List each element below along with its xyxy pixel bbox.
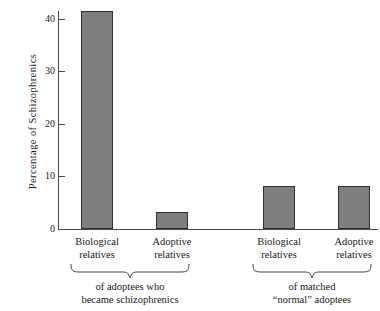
y-tick-label-0: 0	[25, 224, 55, 234]
bar-label-line1: Biological	[54, 236, 140, 249]
group-caption-line1: of matched	[222, 281, 380, 294]
y-tick-label-30: 30	[25, 66, 55, 76]
bar-label-group2-adoptive: Adoptive relatives	[311, 236, 380, 261]
group-caption-line1: of adoptees who	[40, 281, 220, 294]
bar-label-line2: relatives	[236, 249, 322, 262]
y-tick-mark-30	[59, 71, 65, 72]
bar-group2-biological-relatives	[263, 186, 295, 229]
group-caption-right: of matched “normal” adoptees	[222, 281, 380, 306]
group-caption-line2: “normal” adoptees	[222, 294, 380, 307]
x-axis-line	[58, 229, 378, 230]
bar-label-group1-adoptive: Adoptive relatives	[129, 236, 215, 261]
y-tick-mark-40	[59, 19, 65, 20]
bar-group1-biological-relatives	[81, 11, 113, 229]
bar-label-line1: Adoptive	[311, 236, 380, 249]
bar-group1-adoptive-relatives	[156, 212, 188, 229]
bar-label-line1: Biological	[236, 236, 322, 249]
y-tick-mark-0	[59, 229, 65, 230]
group-caption-left: of adoptees who became schizophrenics	[40, 281, 220, 306]
y-tick-label-40: 40	[25, 14, 55, 24]
bar-label-group1-biological: Biological relatives	[54, 236, 140, 261]
bar-label-group2-biological: Biological relatives	[236, 236, 322, 261]
group-brace-right-icon	[252, 263, 372, 279]
y-tick-mark-20	[59, 124, 65, 125]
bar-group2-adoptive-relatives	[338, 186, 370, 229]
bar-chart: Percentage of Schizophrenics 40 30 20 10…	[0, 0, 380, 311]
group-brace-left-icon	[70, 263, 190, 279]
bar-label-line2: relatives	[311, 249, 380, 262]
group-caption-line2: became schizophrenics	[40, 294, 220, 307]
y-axis-line	[58, 11, 59, 230]
bar-label-line1: Adoptive	[129, 236, 215, 249]
bar-label-line2: relatives	[129, 249, 215, 262]
bar-label-line2: relatives	[54, 249, 140, 262]
y-tick-label-10: 10	[25, 171, 55, 181]
y-tick-label-20: 20	[25, 119, 55, 129]
y-tick-mark-10	[59, 176, 65, 177]
